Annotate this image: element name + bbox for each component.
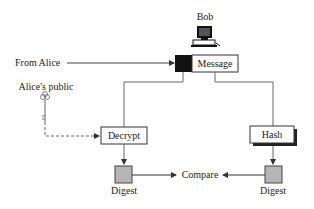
digest-right-label: Digest xyxy=(260,185,286,196)
digest-left-label: Digest xyxy=(111,185,137,196)
key-icon xyxy=(41,92,50,123)
hash-label: Hash xyxy=(262,129,283,140)
digest-left-square xyxy=(115,166,132,183)
from-alice-label: From Alice xyxy=(15,57,61,68)
signature-to-decrypt-line xyxy=(124,72,183,127)
bob-label: Bob xyxy=(197,11,214,22)
digital-signature-verification-diagram: Bob From Alice Message Alice's public De… xyxy=(0,0,314,209)
hash-box: Hash xyxy=(250,126,297,146)
computer-icon xyxy=(191,26,220,47)
message-to-hash-line xyxy=(215,72,273,127)
alices-public-key-label: Alice's public xyxy=(19,81,74,92)
message-box: Message xyxy=(175,55,238,72)
compare-label: Compare xyxy=(182,169,219,180)
signature-block xyxy=(175,55,192,72)
decrypt-label: Decrypt xyxy=(108,130,140,141)
key-to-decrypt-arrow xyxy=(45,122,99,136)
digest-right-square xyxy=(265,166,282,183)
message-label: Message xyxy=(198,58,234,69)
decrypt-box: Decrypt xyxy=(101,127,147,144)
